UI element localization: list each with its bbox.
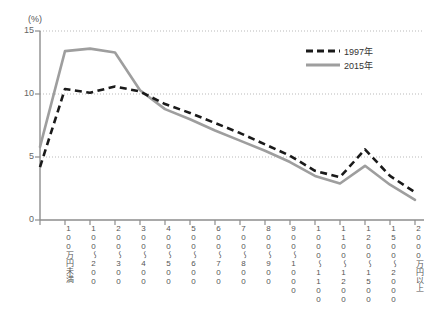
x-axis-label: 800〜900 xyxy=(257,224,273,286)
x-axis-label: 100万円未満 xyxy=(57,224,73,283)
chart-figure: (%) 15 10 5 0 1997年 xyxy=(0,0,437,332)
legend-entry-1997: 1997年 xyxy=(306,44,373,58)
x-axis-label: 200〜300 xyxy=(107,224,123,286)
y-axis-ticks xyxy=(35,31,40,220)
x-axis-label: 2000万円以上 xyxy=(407,224,423,292)
y-tick-label-10: 10 xyxy=(12,88,34,98)
legend-label-2015: 2015年 xyxy=(344,59,373,72)
x-axis-label: 300〜400 xyxy=(132,224,148,286)
x-axis-label: 700〜800 xyxy=(232,224,248,286)
x-axis-labels: 100万円未満100〜200200〜300300〜400400〜500500〜6… xyxy=(0,224,437,332)
x-axis-label: 1200〜1500 xyxy=(357,224,373,304)
series-line-1997 xyxy=(40,86,415,192)
x-axis-label: 900〜1000 xyxy=(282,224,298,295)
y-tick-label-5: 5 xyxy=(12,151,34,161)
x-axis-label: 1000〜1100 xyxy=(307,224,323,304)
x-axis-label: 1500〜2000 xyxy=(382,224,398,304)
x-axis-label: 400〜500 xyxy=(157,224,173,286)
y-tick-label-0: 0 xyxy=(12,214,34,224)
y-tick-label-15: 15 xyxy=(12,25,34,35)
legend-swatch-solid-icon xyxy=(306,60,340,70)
legend-swatch-dashed-icon xyxy=(306,46,340,56)
x-axis-label: 1100〜1200 xyxy=(332,224,348,304)
legend-entry-2015: 2015年 xyxy=(306,58,373,72)
x-axis-label: 500〜600 xyxy=(182,224,198,286)
chart-legend: 1997年 2015年 xyxy=(306,44,373,72)
x-axis-label: 100〜200 xyxy=(82,224,98,286)
x-axis-label: 600〜700 xyxy=(207,224,223,286)
legend-label-1997: 1997年 xyxy=(344,45,373,58)
